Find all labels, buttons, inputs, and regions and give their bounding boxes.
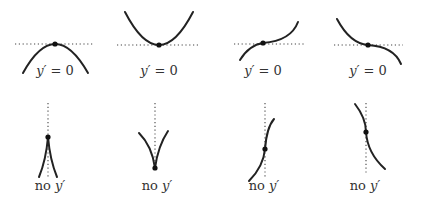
panel-cusp-up — [39, 103, 57, 178]
label-var: y′ — [349, 63, 359, 78]
label-no: no — [142, 178, 162, 193]
min-curve — [125, 12, 193, 45]
diagram-canvas — [0, 0, 422, 207]
tangent-point — [156, 42, 161, 47]
tangent-point — [262, 146, 267, 151]
label-no: no — [350, 178, 370, 193]
label-eq: = 0 — [359, 63, 386, 78]
label-var: y′ — [269, 178, 279, 193]
cusp-right-branch — [155, 131, 168, 168]
cusp-left-branch — [139, 133, 155, 168]
label-inflection-up: y′ = 0 — [244, 63, 282, 78]
label-vertical-down: no y′ — [350, 178, 381, 193]
tangent-point — [363, 129, 368, 134]
vertical-tangent-curve — [249, 119, 274, 181]
label-eq: = 0 — [150, 63, 177, 78]
inflection-curve — [337, 19, 401, 64]
cusp-point — [45, 134, 50, 139]
label-eq: = 0 — [254, 63, 281, 78]
label-var: y′ — [36, 63, 46, 78]
panel-increasing-inflection — [234, 22, 305, 60]
label-eq: = 0 — [46, 63, 73, 78]
label-var: y′ — [244, 63, 254, 78]
tangent-point — [365, 42, 370, 47]
label-vertical-up: no y′ — [249, 178, 280, 193]
panel-local-minimum — [117, 12, 200, 48]
label-var: y′ — [140, 63, 150, 78]
label-cusp-down: no y′ — [142, 178, 173, 193]
label-min: y′ = 0 — [140, 63, 178, 78]
panel-cusp-down — [139, 103, 168, 171]
tangent-point — [260, 40, 265, 45]
label-max: y′ = 0 — [36, 63, 74, 78]
cusp-left-branch — [39, 137, 48, 177]
tangent-point — [52, 41, 57, 46]
panel-vertical-tangent-increasing — [249, 103, 274, 181]
label-var: y′ — [55, 178, 65, 193]
label-var: y′ — [370, 178, 380, 193]
panel-decreasing-inflection — [334, 19, 403, 64]
label-var: y′ — [162, 178, 172, 193]
cusp-right-branch — [48, 137, 57, 177]
label-inflection-down: y′ = 0 — [349, 63, 387, 78]
label-no: no — [35, 178, 55, 193]
vertical-tangent-curve — [355, 104, 385, 169]
cusp-point — [152, 165, 157, 170]
inflection-curve — [240, 22, 298, 60]
panel-vertical-tangent-decreasing — [355, 103, 385, 175]
label-cusp-up: no y′ — [35, 178, 66, 193]
label-no: no — [249, 178, 269, 193]
